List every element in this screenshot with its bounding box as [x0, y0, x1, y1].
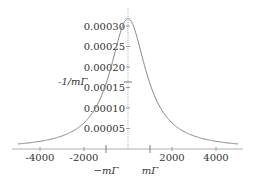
x-tick-label: 4000 — [203, 152, 228, 163]
x-marker-left-label: −mΓ — [94, 165, 120, 176]
x-tick-label: 2000 — [159, 152, 184, 163]
y-tick-label: 0.00030 — [84, 21, 125, 32]
y-tick-label: 0.00005 — [84, 123, 125, 134]
x-tick-label: -4000 — [26, 152, 55, 163]
x-ticks: -4000-200020004000 — [26, 145, 229, 163]
x-marker-right-label: mΓ — [142, 165, 159, 176]
axes — [12, 8, 243, 149]
lorentzian-curve — [18, 18, 238, 143]
chart: -4000-200020004000 0.000050.000100.00015… — [0, 0, 254, 187]
x-tick-label: -2000 — [70, 152, 99, 163]
y-marker-label: -1/mΓ — [58, 76, 89, 87]
y-tick-label: 0.00010 — [84, 103, 125, 114]
y-tick-label: 0.00020 — [84, 62, 125, 73]
y-tick-label: 0.00025 — [84, 41, 125, 52]
